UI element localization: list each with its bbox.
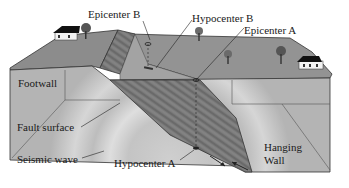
label-fault-surface: Fault surface <box>17 122 74 133</box>
house-left-icon <box>53 26 80 40</box>
label-hanging-wall-line1: Hanging <box>264 142 302 153</box>
label-footwall: Footwall <box>18 78 57 89</box>
label-hypocenter-a: Hypocenter A <box>114 158 175 169</box>
label-epicenter-a: Epicenter A <box>244 25 296 36</box>
label-hypocenter-b: Hypocenter B <box>192 13 253 24</box>
label-hanging-wall-line2: Wall <box>264 155 285 166</box>
label-epicenter-b: Epicenter B <box>88 9 140 20</box>
fault-block-diagram: Epicenter B Hypocenter B Epicenter A Foo… <box>0 0 349 188</box>
hypocenter-a-marker <box>193 146 199 149</box>
label-seismic-wave: Seismic wave <box>17 154 78 165</box>
